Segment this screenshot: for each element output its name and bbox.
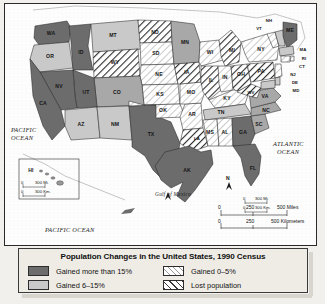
map-canvas: WA OR ID MT ND SD MN WI MI NY VT NH ME M… xyxy=(4,3,317,246)
state-label-DE: DE xyxy=(292,80,298,85)
state-label-MA: MA xyxy=(300,47,307,52)
state-label-MD: MD xyxy=(293,88,300,93)
state-label-OH: OH xyxy=(237,71,245,77)
state-label-CA: CA xyxy=(39,100,47,106)
legend-swatch-dark xyxy=(28,266,49,276)
us-map-svg: WA OR ID MT ND SD MN WI MI NY VT NH ME M… xyxy=(5,4,316,245)
state-label-SD: SD xyxy=(152,50,159,56)
state-label-VT: VT xyxy=(256,26,262,31)
pacific-ocean-label-line1: PACIFIC xyxy=(10,126,37,133)
scale-km-250: 250 xyxy=(246,218,255,224)
state-label-OR: OR xyxy=(46,53,54,59)
state-label-NC: NC xyxy=(262,107,270,113)
state-label-LA: LA xyxy=(194,136,200,141)
state-label-IN: IN xyxy=(222,74,228,80)
state-label-MI: MI xyxy=(229,47,235,53)
state-label-NJ: NJ xyxy=(290,72,296,77)
state-label-VA: VA xyxy=(262,93,269,99)
state-label-WA: WA xyxy=(47,30,56,36)
state-label-TX: TX xyxy=(148,131,155,137)
atlantic-ocean-label-line2: OCEAN xyxy=(277,148,300,155)
state-DE[interactable] xyxy=(275,77,280,85)
state-label-WV: WV xyxy=(247,90,254,95)
state-label-GA: GA xyxy=(239,129,247,135)
state-label-HI: HI xyxy=(28,167,34,173)
scale-km-0: 0 xyxy=(218,218,221,224)
state-CT[interactable] xyxy=(281,56,290,62)
state-NJ[interactable] xyxy=(275,64,282,78)
map-figure: WA OR ID MT ND SD MN WI MI NY VT NH ME M… xyxy=(0,0,325,304)
state-label-RI: RI xyxy=(302,56,307,61)
hi-scale-mi-max: 300 Mi. xyxy=(35,180,49,185)
legend-swatch-light-hatch xyxy=(163,266,184,276)
legend-item-gained-0-5[interactable]: Gained 0–5% xyxy=(163,264,298,278)
legend: Population Changes in the United States,… xyxy=(18,248,308,293)
state-label-WY: WY xyxy=(111,59,120,65)
figure-shadow-bottom xyxy=(22,294,312,298)
state-label-AR: AR xyxy=(188,111,196,117)
state-label-AL: AL xyxy=(222,129,229,135)
state-label-CO: CO xyxy=(113,89,121,95)
scale-km-500: 500 Kilometers xyxy=(271,218,305,224)
state-label-AK: AK xyxy=(183,167,191,173)
legend-label-2: Gained 6–15% xyxy=(56,281,105,290)
legend-item-gained-more-than-15[interactable]: Gained more than 15% xyxy=(28,264,163,278)
state-label-KS: KS xyxy=(156,91,164,97)
hi-scale-km-max: 300 Km. xyxy=(35,189,51,194)
state-label-WI: WI xyxy=(207,49,214,55)
state-RI[interactable] xyxy=(290,56,294,61)
legend-label-0: Gained more than 15% xyxy=(56,267,132,276)
atlantic-ocean-label-line1: ATLANTIC xyxy=(272,140,304,147)
legend-item-gained-6-15[interactable]: Gained 6–15% xyxy=(28,278,163,292)
ak-scale-km-max: 300 Km. xyxy=(255,205,271,210)
scale-miles-0: 0 xyxy=(218,204,221,210)
state-label-ND: ND xyxy=(151,29,159,35)
state-label-SC: SC xyxy=(255,121,262,127)
state-label-MO: MO xyxy=(187,89,195,95)
state-label-NV: NV xyxy=(55,83,63,89)
state-label-ME: ME xyxy=(286,27,294,33)
state-MA[interactable] xyxy=(279,46,294,56)
scale-miles-250: 250 xyxy=(246,204,255,210)
legend-label-3: Lost population xyxy=(191,281,241,290)
legend-title: Population Changes in the United States,… xyxy=(19,252,307,261)
legend-label-1: Gained 0–5% xyxy=(191,267,236,276)
pacific-ocean-south-label: PACIFIC OCEAN xyxy=(44,226,95,233)
state-label-FL: FL xyxy=(250,165,256,171)
state-label-NE: NE xyxy=(155,71,163,77)
gulf-of-mexico-label: Gulf of Mexico xyxy=(155,191,191,197)
state-label-MT: MT xyxy=(109,32,117,38)
legend-swatch-dark-hatch xyxy=(163,280,184,290)
svg-text:N: N xyxy=(226,175,230,181)
state-label-NH: NH xyxy=(266,18,272,23)
state-label-NY: NY xyxy=(257,46,265,52)
state-label-MS: MS xyxy=(206,129,214,135)
pacific-ocean-label-line2: OCEAN xyxy=(11,134,34,141)
state-label-IL: IL xyxy=(209,77,214,83)
state-label-OK: OK xyxy=(159,107,167,113)
state-label-ID: ID xyxy=(78,49,84,55)
ak-scale-mi-max: 300 Mi. xyxy=(255,196,269,201)
scale-miles-500: 500 Miles xyxy=(277,204,299,210)
state-label-TN: TN xyxy=(218,109,225,115)
state-label-PA: PA xyxy=(258,68,265,74)
state-label-NM: NM xyxy=(111,121,119,127)
state-label-MN: MN xyxy=(181,39,189,45)
legend-item-lost-population[interactable]: Lost population xyxy=(163,278,298,292)
state-label-KY: KY xyxy=(223,95,231,101)
state-label-CT: CT xyxy=(299,64,305,69)
state-label-IA: IA xyxy=(184,69,190,75)
legend-swatch-light xyxy=(28,280,49,290)
figure-shadow-right xyxy=(309,252,313,296)
state-label-UT: UT xyxy=(83,89,91,95)
state-label-AZ: AZ xyxy=(78,121,85,127)
